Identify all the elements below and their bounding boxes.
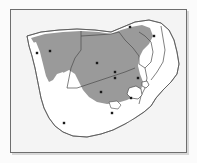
locality-dot	[96, 62, 98, 64]
locality-dot	[114, 77, 116, 79]
locality-dot	[63, 122, 65, 124]
locality-dot	[153, 35, 155, 37]
locality-dot	[137, 77, 139, 79]
locality-dot	[130, 97, 132, 99]
map-frame	[10, 9, 187, 153]
locality-dot	[114, 71, 116, 73]
locality-dot	[129, 26, 131, 28]
map-canvas	[11, 10, 186, 152]
locality-dot	[49, 50, 51, 52]
locality-dot	[111, 112, 113, 114]
locality-dot	[100, 91, 102, 93]
distribution-map-figure	[0, 0, 197, 163]
locality-dot	[36, 52, 38, 54]
